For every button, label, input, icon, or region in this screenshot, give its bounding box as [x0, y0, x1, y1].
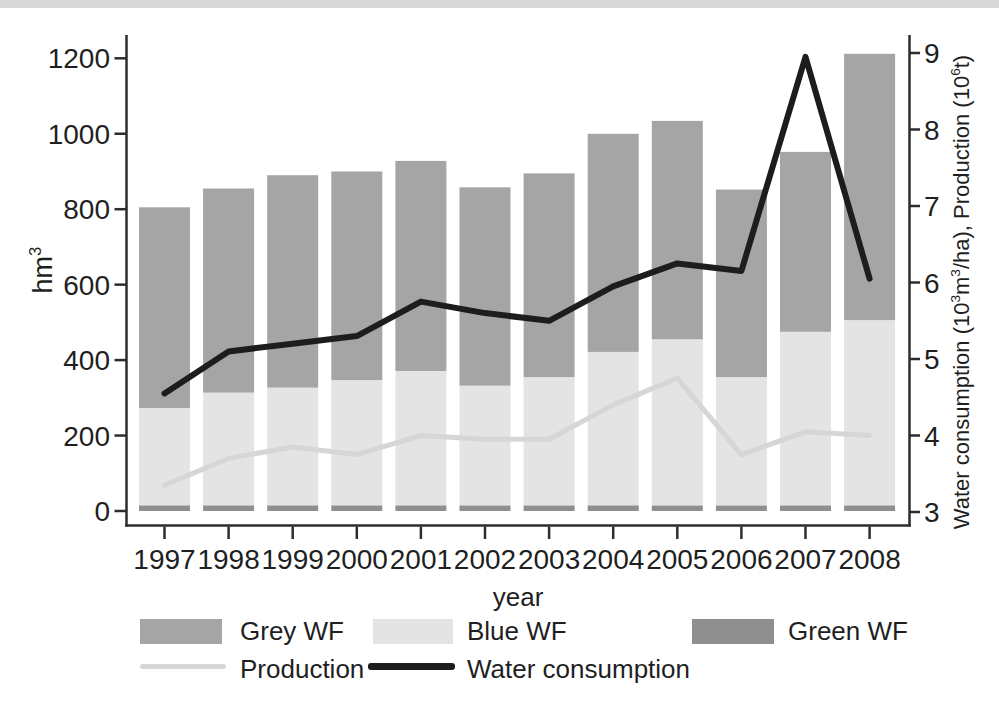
green-wf-bar-2007 [780, 505, 831, 511]
green-wf-bar-2006 [716, 505, 767, 511]
green-wf-bar-2003 [524, 505, 575, 511]
right-axis-title-part: /ha), Production (10 [949, 76, 974, 269]
green-wf-bar-1999 [267, 505, 318, 511]
right-axis-title: Water consumption (103m3/ha), Production… [949, 55, 975, 529]
x-tick-label: 2005 [646, 544, 708, 575]
x-tick-label: 1997 [133, 544, 195, 575]
green-wf-bar-2004 [588, 505, 639, 511]
green-wf-bar-2002 [460, 505, 511, 511]
right-axis-title-sup: 3 [948, 269, 963, 277]
y-left-tick-label: 400 [63, 345, 110, 376]
blue-wf-bar-2007 [780, 332, 831, 506]
grey-wf-bar-2000 [331, 172, 382, 381]
right-axis-title-part: t) [949, 55, 974, 68]
x-tick-label: 2003 [518, 544, 580, 575]
blue-wf-bar-2002 [460, 386, 511, 506]
x-tick-label: 1998 [197, 544, 259, 575]
green-wf-bar-2008 [844, 505, 895, 511]
x-tick-label: 2007 [774, 544, 836, 575]
grey-wf-bar-2005 [652, 121, 703, 339]
legend-swatch-production-line [140, 664, 226, 669]
y-left-tick-label: 1000 [48, 119, 110, 150]
y-right-tick-label: 9 [924, 38, 940, 69]
legend-label-green-wf: Green WF [788, 618, 908, 645]
right-axis-title-part: Water consumption (10 [949, 303, 974, 530]
legend-swatch-green-wf [692, 619, 774, 644]
blue-wf-bar-2005 [652, 339, 703, 505]
legend-label-production: Production [240, 656, 364, 683]
y-right-tick-label: 6 [924, 268, 940, 299]
y-right-tick-label: 8 [924, 115, 940, 146]
blue-wf-bar-2004 [588, 352, 639, 506]
blue-wf-bar-2008 [844, 320, 895, 505]
grey-wf-bar-2003 [524, 173, 575, 377]
y-left-tick-label: 800 [63, 194, 110, 225]
grey-wf-bar-2002 [460, 187, 511, 385]
figure-root: 0200400600800100012003456789199719981999… [0, 0, 999, 717]
x-tick-label: 2001 [390, 544, 452, 575]
y-left-tick-label: 1200 [48, 43, 110, 74]
blue-wf-bar-2000 [331, 380, 382, 505]
x-tick-label: 2004 [582, 544, 644, 575]
green-wf-bar-2001 [395, 505, 446, 511]
y-right-tick-label: 7 [924, 191, 940, 222]
grey-wf-bar-2001 [395, 161, 446, 371]
grey-wf-bar-2007 [780, 152, 831, 332]
green-wf-bar-2005 [652, 505, 703, 511]
legend-label-blue-wf: Blue WF [467, 618, 567, 645]
y-right-tick-label: 5 [924, 344, 940, 375]
green-wf-bar-2000 [331, 505, 382, 511]
legend-label-water-consumption: Water consumption [467, 656, 690, 683]
x-axis-title: year [493, 582, 544, 613]
grey-wf-bar-2004 [588, 134, 639, 352]
y-left-tick-label: 0 [94, 496, 110, 527]
green-wf-bar-1998 [203, 505, 254, 511]
grey-wf-bar-1997 [139, 207, 190, 408]
blue-wf-bar-1998 [203, 393, 254, 506]
legend-swatch-grey-wf [140, 619, 222, 644]
right-axis-title-part: m [949, 277, 974, 295]
left-axis-title: hm3 [27, 247, 59, 294]
x-tick-label: 2000 [326, 544, 388, 575]
left-axis-title-sup: 3 [26, 247, 45, 256]
legend-swatch-blue-wf [373, 619, 453, 644]
grey-wf-bar-1999 [267, 175, 318, 387]
blue-wf-bar-2006 [716, 377, 767, 505]
y-right-tick-label: 3 [924, 497, 940, 528]
blue-wf-bar-1997 [139, 408, 190, 505]
y-left-tick-label: 600 [63, 270, 110, 301]
green-wf-bar-1997 [139, 505, 190, 511]
left-axis-title-text: hm [28, 256, 58, 294]
y-left-tick-label: 200 [63, 421, 110, 452]
y-right-tick-label: 4 [924, 421, 940, 452]
x-tick-label: 2006 [710, 544, 772, 575]
legend-swatch-water-consumption-line [368, 663, 455, 670]
x-tick-label: 1999 [262, 544, 324, 575]
x-tick-label: 2002 [454, 544, 516, 575]
right-axis-title-sup: 3 [948, 295, 963, 303]
right-axis-title-sup: 6 [948, 68, 963, 76]
x-tick-label: 2008 [838, 544, 900, 575]
legend-label-grey-wf: Grey WF [240, 618, 344, 645]
